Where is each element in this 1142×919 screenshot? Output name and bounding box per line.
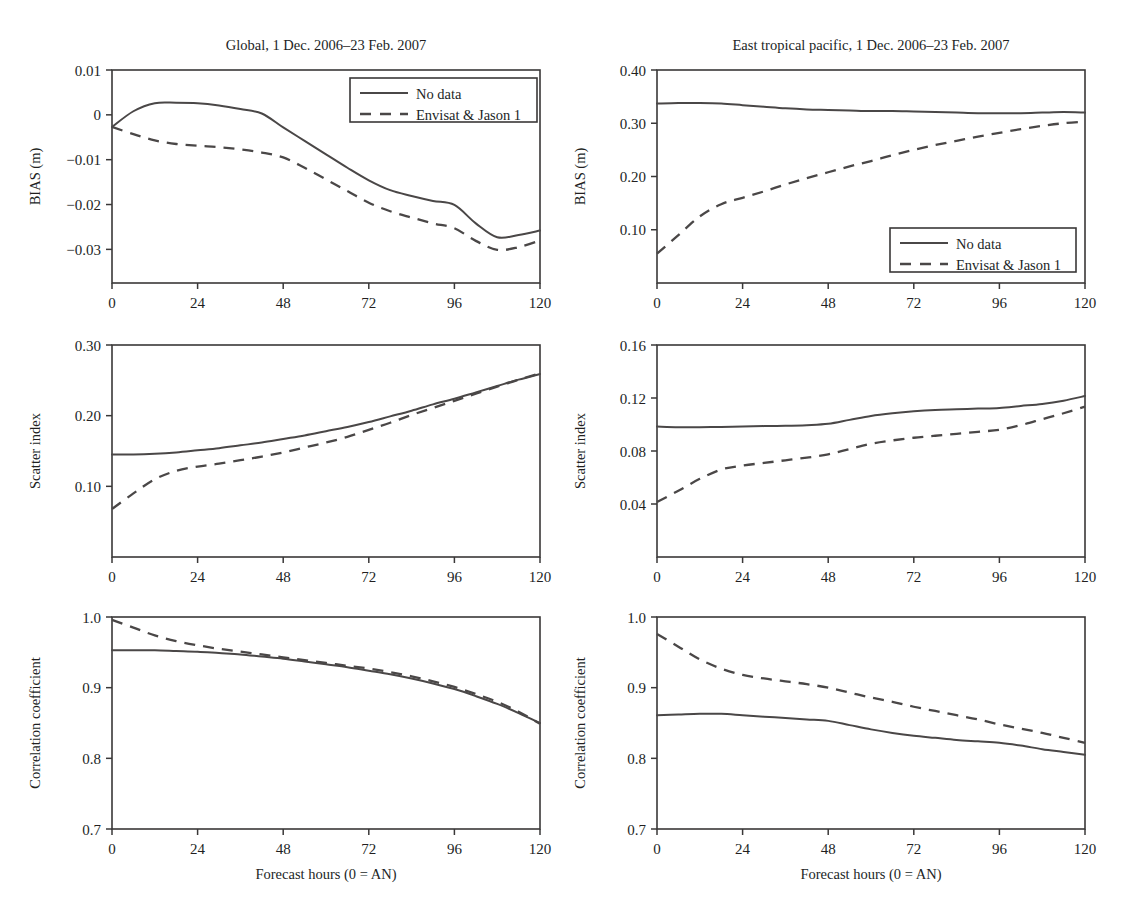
x-tick-label: 48 [821, 295, 836, 311]
panel-scatter-index-east-tropical-pacific: 0.160.120.080.04024487296120Scatter inde… [572, 338, 1096, 586]
x-tick-label: 24 [190, 841, 206, 857]
series-line-dashed [112, 373, 540, 509]
panel-correlation-global: 1.00.90.80.7024487296120Correlation coef… [27, 610, 551, 884]
x-tick-label: 96 [992, 569, 1008, 585]
x-tick-label: 96 [447, 569, 463, 585]
y-tick-label: 0.40 [620, 63, 646, 79]
x-tick-label: 24 [735, 295, 751, 311]
x-tick-label: 72 [361, 295, 376, 311]
legend-label-no-data: No data [416, 86, 462, 102]
x-tick-label: 96 [992, 295, 1008, 311]
y-tick-label: −0.03 [66, 242, 101, 258]
y-axis-label-bias-global: BIAS (m) [27, 148, 44, 206]
y-axis-label-scatter-index-global: Scatter index [27, 412, 43, 489]
x-tick-label: 120 [1074, 841, 1097, 857]
panel-title-bias-east-tropical-pacific: East tropical pacific, 1 Dec. 2006–23 Fe… [732, 37, 1009, 53]
panel-scatter-index-global: 0.300.200.10024487296120Scatter index [27, 338, 551, 586]
y-tick-label: 1.0 [82, 610, 101, 626]
x-tick-label: 96 [447, 295, 463, 311]
x-tick-label: 48 [821, 841, 836, 857]
x-tick-label: 72 [906, 569, 921, 585]
y-tick-label: 0.04 [620, 497, 647, 513]
figure-container: Global, 1 Dec. 2006–23 Feb. 20070.010−0.… [0, 0, 1142, 919]
x-tick-label: 72 [906, 841, 921, 857]
x-tick-label: 48 [276, 841, 291, 857]
series-line-solid [112, 650, 540, 723]
plot-frame-scatter-index-global [112, 345, 540, 557]
y-tick-label: 1.0 [627, 610, 646, 626]
x-tick-label: 120 [1074, 295, 1097, 311]
x-tick-label: 48 [276, 295, 291, 311]
y-tick-label: 0.8 [627, 751, 646, 767]
y-tick-label: 0.8 [82, 751, 101, 767]
y-tick-label: −0.02 [66, 197, 101, 213]
y-tick-label: 0.7 [82, 822, 101, 838]
x-tick-label: 120 [529, 569, 552, 585]
x-tick-label: 72 [361, 841, 376, 857]
y-tick-label: 0 [94, 107, 102, 123]
x-tick-label: 72 [906, 295, 921, 311]
series-line-solid [657, 714, 1085, 755]
x-tick-label: 0 [108, 295, 116, 311]
x-tick-label: 96 [447, 841, 463, 857]
series-line-dashed [112, 620, 540, 724]
legend-label-envisat-jason: Envisat & Jason 1 [416, 107, 521, 123]
y-tick-label: 0.10 [620, 222, 646, 238]
panel-correlation-east-tropical-pacific: 1.00.90.80.7024487296120Correlation coef… [572, 610, 1096, 884]
x-tick-label: 0 [653, 569, 661, 585]
x-tick-label: 24 [735, 569, 751, 585]
y-tick-label: 0.20 [620, 169, 646, 185]
x-tick-label: 24 [735, 841, 751, 857]
legend-label-no-data: No data [956, 236, 1002, 252]
series-line-solid [112, 374, 540, 455]
y-tick-label: 0.9 [82, 680, 101, 696]
legend-bias-east-tropical-pacific: No dataEnvisat & Jason 1 [890, 228, 1076, 273]
y-tick-label: 0.20 [75, 408, 101, 424]
y-tick-label: 0.10 [75, 479, 101, 495]
plot-frame-correlation-global [112, 617, 540, 829]
series-line-dashed [657, 407, 1085, 502]
legend-label-envisat-jason: Envisat & Jason 1 [956, 257, 1061, 273]
legend-bias-global: No dataEnvisat & Jason 1 [350, 78, 537, 123]
x-tick-label: 0 [653, 295, 661, 311]
x-tick-label: 0 [108, 569, 116, 585]
x-tick-label: 0 [108, 841, 116, 857]
multi-panel-line-chart: Global, 1 Dec. 2006–23 Feb. 20070.010−0.… [0, 0, 1142, 919]
y-tick-label: 0.9 [627, 680, 646, 696]
series-line-solid [657, 396, 1085, 427]
x-tick-label: 96 [992, 841, 1008, 857]
x-tick-label: 120 [1074, 569, 1097, 585]
y-tick-label: 0.7 [627, 822, 646, 838]
x-tick-label: 48 [276, 569, 291, 585]
x-tick-label: 120 [529, 295, 552, 311]
y-tick-label: 0.01 [75, 63, 101, 79]
x-tick-label: 48 [821, 569, 836, 585]
y-axis-label-scatter-index-east-tropical-pacific: Scatter index [572, 412, 588, 489]
x-tick-label: 0 [653, 841, 661, 857]
series-line-dashed [112, 127, 540, 250]
y-tick-label: 0.08 [620, 444, 646, 460]
y-tick-label: −0.01 [66, 152, 101, 168]
y-axis-label-correlation-east-tropical-pacific: Correlation coefficient [572, 657, 588, 788]
series-line-solid [657, 103, 1085, 113]
y-tick-label: 0.16 [620, 338, 647, 354]
plot-frame-scatter-index-east-tropical-pacific [657, 345, 1085, 557]
y-axis-label-correlation-global: Correlation coefficient [27, 657, 43, 788]
x-axis-label-correlation-global: Forecast hours (0 = AN) [255, 866, 396, 883]
x-tick-label: 120 [529, 841, 552, 857]
x-tick-label: 24 [190, 295, 206, 311]
panel-title-bias-global: Global, 1 Dec. 2006–23 Feb. 2007 [226, 37, 427, 53]
x-axis-label-correlation-east-tropical-pacific: Forecast hours (0 = AN) [800, 866, 941, 883]
x-tick-label: 24 [190, 569, 206, 585]
plot-frame-correlation-east-tropical-pacific [657, 617, 1085, 829]
y-tick-label: 0.30 [75, 338, 101, 354]
x-tick-label: 72 [361, 569, 376, 585]
series-line-dashed [657, 634, 1085, 743]
y-axis-label-bias-east-tropical-pacific: BIAS (m) [572, 148, 589, 206]
y-tick-label: 0.30 [620, 116, 646, 132]
y-tick-label: 0.12 [620, 391, 646, 407]
